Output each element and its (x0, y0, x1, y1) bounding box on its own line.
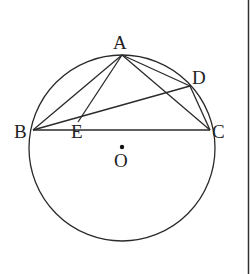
label-b: B (14, 121, 27, 142)
label-e: E (71, 121, 83, 142)
label-o: O (114, 150, 128, 171)
segment-dc (190, 86, 210, 130)
geometry-diagram: A B C D E O (0, 0, 250, 274)
label-a: A (113, 32, 127, 53)
label-c: C (212, 121, 225, 142)
label-d: D (192, 67, 206, 88)
segment-ae (78, 55, 122, 122)
segment-ad (122, 55, 190, 86)
center-dot (120, 145, 124, 149)
segment-bd (33, 86, 190, 130)
